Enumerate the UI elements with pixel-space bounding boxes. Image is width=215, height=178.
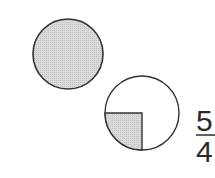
fraction-numerator: 5	[196, 104, 213, 137]
fraction-diagram: 5 4	[0, 0, 215, 178]
shaded-quarter	[105, 113, 142, 150]
whole-circle	[33, 19, 103, 89]
quarter-shaded-circle	[105, 76, 179, 150]
fraction-label: 5 4	[196, 104, 215, 168]
fraction-denominator: 4	[196, 135, 213, 168]
